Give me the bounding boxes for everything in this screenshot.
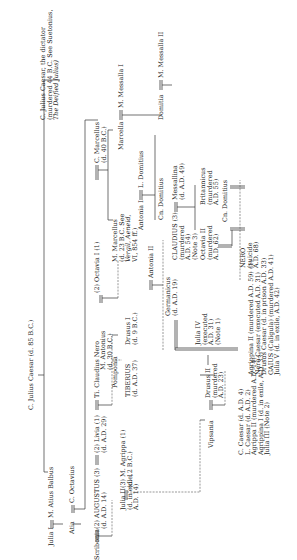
person-m-messalla-i: M. Messalla I — [118, 64, 125, 108]
person-m-marcellus: M. Marcellus (d. 23 B.C. See Vergil, Aen… — [112, 214, 138, 262]
person-tiberius: TIBERIUS (d. A.D. 37) — [125, 360, 138, 397]
person-julius-caesar-dictator: C. Julius Caesar, the dictator (murdered… — [40, 10, 60, 120]
person-antonia-ii: Antonia II — [148, 246, 155, 278]
person-cn-domitius-elder: Cn. Domitius — [158, 178, 165, 220]
person-c-marcellus: C. Marcellus (d. 40 B.C.) — [94, 122, 107, 163]
person-domitia: Domitia — [158, 95, 165, 121]
person-cn-domitius: Cn. Domitius — [222, 180, 229, 222]
person-claudius: CLAUDIUS (3) (murdered A.D. 54) (Note 3) — [172, 212, 198, 260]
person-messallina: Messallina (d. A.D. 49) — [172, 163, 185, 200]
person-augustus: (2) AUGUSTUS (3) (d. A.D. 14) — [94, 468, 107, 529]
germanicus-children-list: Agrippina II (murdered A.D. 59) (1) Nero… — [248, 254, 281, 375]
person-marcella: Marcella — [118, 121, 125, 150]
person-m-agrippa: (3) M. Agrippa (1) (d. 12 B.C.) — [120, 429, 133, 488]
person-octavia-ii: Octavia II (murdered A.D. 62) — [200, 225, 220, 260]
person-britannicus: Britannicus (murdered A.D. 55) — [200, 168, 220, 205]
person-antonia-i: Antonia I — [138, 200, 145, 230]
person-vipsania: Vipsania — [208, 420, 215, 448]
person-atia: Atia — [69, 521, 76, 534]
person-drusus-ii: Drusus II (murdered A.D. 23) — [205, 363, 225, 398]
person-germanicus: Germanicus (d. A.D. 19) — [165, 277, 178, 316]
person-octavia-i: (2) Octavia I (1) — [94, 242, 101, 293]
person-c-julius-caesar-elder: C. Julius Caesar (d. 85 B.C.) — [28, 320, 35, 410]
person-c-octavius: C. Octavius — [69, 466, 76, 503]
person-scribonia: Scribonia — [94, 529, 101, 560]
person-drusus-i: Drusus I (d. 9 B.C.) — [125, 312, 138, 345]
family-tree-diagram: C. Julius Caesar (d. 85 B.C.) C. Julius … — [0, 0, 297, 560]
person-julia-i: Julia I — [48, 527, 55, 546]
person-julia-iv: Julia IV (executed A.D. 31) (Note 1) — [195, 313, 221, 345]
person-atius-balbus: M. Atius Balbus — [48, 467, 55, 518]
person-pomponia: Pomponia — [112, 356, 119, 388]
person-l-domitius: L. Domitius — [138, 151, 145, 188]
person-m-messalla-ii: M. Messalla II — [158, 32, 165, 78]
person-livia: (2) Livia (1) (d. A.D. 29) — [94, 415, 107, 453]
